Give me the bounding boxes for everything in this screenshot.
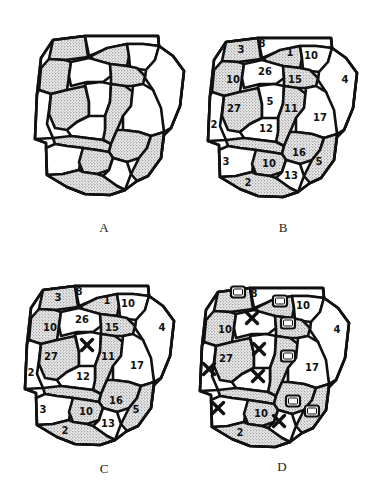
region-number: 27 bbox=[219, 353, 233, 364]
region-number: 4 bbox=[334, 324, 341, 335]
region-number: 10 bbox=[262, 158, 276, 169]
region-number: 12 bbox=[76, 371, 90, 382]
region-number: 2 bbox=[62, 425, 69, 436]
region-number: 10 bbox=[254, 408, 268, 419]
region-number: 4 bbox=[159, 322, 166, 333]
region-number: 11 bbox=[284, 103, 298, 114]
region-number: 26 bbox=[258, 66, 272, 77]
region-number: 2 bbox=[211, 119, 218, 130]
panel-b: 3811026101545271117212163105132 bbox=[208, 38, 357, 198]
square-marker-icon bbox=[231, 287, 245, 298]
region-number: 27 bbox=[227, 103, 241, 114]
region-number: 2 bbox=[245, 177, 252, 188]
panel-a bbox=[35, 36, 184, 195]
region-number: 10 bbox=[43, 322, 57, 333]
square-marker-icon bbox=[281, 318, 295, 329]
region-number: 10 bbox=[304, 50, 318, 61]
region-number: 15 bbox=[288, 74, 302, 85]
panel-label-c: C bbox=[100, 461, 109, 477]
region-number: 5 bbox=[133, 404, 140, 415]
panel-label-a: A bbox=[99, 220, 108, 236]
region-number: 17 bbox=[130, 360, 144, 371]
patch-map bbox=[208, 38, 357, 197]
region-number: 2 bbox=[237, 427, 244, 438]
patch-map bbox=[35, 36, 184, 195]
panel-d: 8101042717102 bbox=[200, 288, 349, 448]
region-number: 8 bbox=[251, 288, 258, 299]
region-number: 3 bbox=[223, 156, 230, 167]
region-number: 10 bbox=[296, 300, 310, 311]
region-number: 17 bbox=[305, 362, 319, 373]
region-number: 4 bbox=[342, 74, 349, 85]
region-number: 10 bbox=[226, 74, 240, 85]
square-marker-icon bbox=[273, 296, 287, 307]
region-number: 1 bbox=[104, 295, 111, 306]
region-number: 2 bbox=[28, 367, 35, 378]
square-marker-icon bbox=[305, 406, 319, 417]
region-number: 16 bbox=[109, 395, 123, 406]
region-number: 27 bbox=[44, 351, 58, 362]
region-number: 26 bbox=[75, 314, 89, 325]
panel-c: 381102610154271117212163105132 bbox=[25, 286, 174, 446]
region-number: 5 bbox=[267, 96, 274, 107]
panel-label-d: D bbox=[277, 459, 286, 475]
region-number: 3 bbox=[40, 404, 47, 415]
region-number: 10 bbox=[121, 298, 135, 309]
patch-map bbox=[25, 286, 174, 445]
region-number: 12 bbox=[259, 123, 273, 134]
region-number: 13 bbox=[101, 418, 115, 429]
square-marker-icon bbox=[286, 396, 300, 407]
region-number: 11 bbox=[101, 351, 115, 362]
panel-label-b: B bbox=[279, 220, 288, 236]
region-number: 3 bbox=[238, 44, 245, 55]
region-number: 10 bbox=[218, 324, 232, 335]
region-number: 8 bbox=[259, 38, 266, 49]
region-number: 16 bbox=[292, 147, 306, 158]
region-number: 17 bbox=[313, 112, 327, 123]
region-number: 15 bbox=[105, 322, 119, 333]
region-number: 10 bbox=[79, 406, 93, 417]
region-number: 5 bbox=[316, 156, 323, 167]
region-number: 13 bbox=[284, 170, 298, 181]
region-number: 1 bbox=[287, 47, 294, 58]
square-marker-icon bbox=[281, 351, 295, 362]
patch-map-figure: 3811026101545271117212163105132381102610… bbox=[0, 0, 375, 499]
region-number: 3 bbox=[55, 292, 62, 303]
region-number: 8 bbox=[76, 286, 83, 297]
